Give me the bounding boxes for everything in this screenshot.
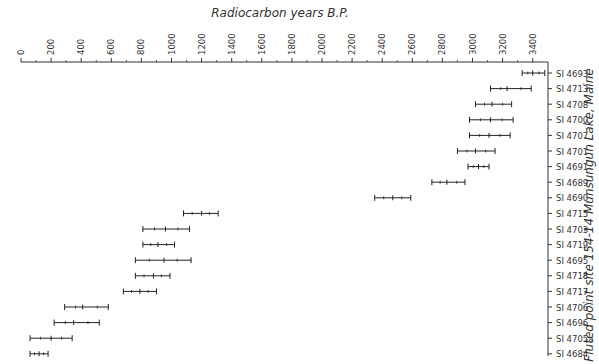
x-tick-label: 2000 bbox=[317, 33, 327, 55]
side-label: Fluted point site 154-14 Munsungun Lake,… bbox=[577, 70, 599, 360]
x-tick-label: 200 bbox=[46, 39, 56, 55]
x-tick-label: 600 bbox=[106, 39, 116, 55]
x-tick-label: 2800 bbox=[437, 33, 447, 55]
x-tick-label: 400 bbox=[76, 39, 86, 55]
x-tick-label: 1400 bbox=[227, 33, 237, 55]
x-tick-label: 3000 bbox=[468, 33, 478, 55]
x-tick-label: 1000 bbox=[167, 33, 177, 55]
x-tick-label: 1200 bbox=[197, 33, 207, 55]
x-tick-label: 2400 bbox=[377, 33, 387, 55]
side-label-text: Fluted point site 154-14 Munsungun Lake,… bbox=[582, 68, 596, 361]
x-tick-label: 3200 bbox=[498, 33, 508, 55]
radiocarbon-range-chart: Radiocarbon years B.P. 02004006008001000… bbox=[0, 0, 599, 364]
x-tick-label: 2600 bbox=[407, 33, 417, 55]
plot-area: 0200400600800100012001400160018002000220… bbox=[0, 0, 599, 364]
x-tick-label: 1600 bbox=[257, 33, 267, 55]
x-tick-label: 800 bbox=[136, 39, 146, 55]
x-tick-label: 2200 bbox=[347, 33, 357, 55]
x-tick-label: 0 bbox=[16, 50, 26, 55]
x-tick-label: 3400 bbox=[528, 33, 538, 55]
x-tick-label: 1800 bbox=[287, 33, 297, 55]
